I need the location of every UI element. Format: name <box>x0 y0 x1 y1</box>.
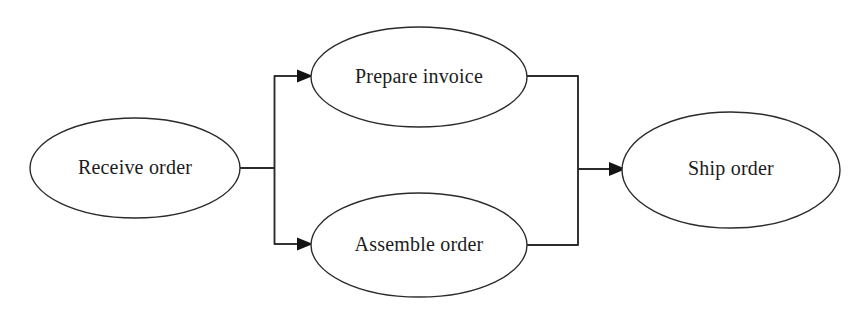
node-label-prepare-invoice: Prepare invoice <box>355 65 483 88</box>
flowchart-canvas: Receive order Prepare invoice Assemble o… <box>0 0 863 321</box>
node-label-receive-order: Receive order <box>78 156 192 178</box>
node-label-assemble-order: Assemble order <box>355 233 484 255</box>
flowchart-diagram: Receive order Prepare invoice Assemble o… <box>0 0 863 321</box>
node-label-ship-order: Ship order <box>688 157 774 180</box>
